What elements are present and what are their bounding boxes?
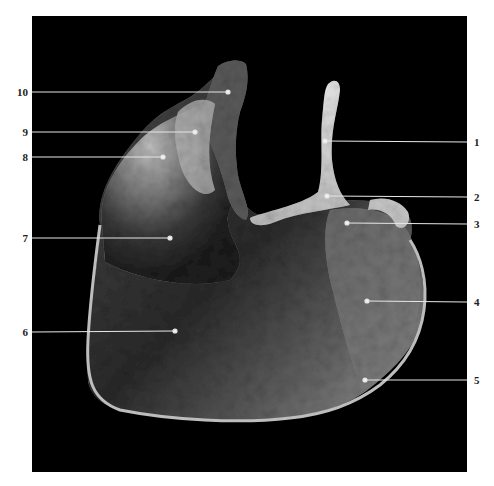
label-2: 2 — [474, 191, 494, 203]
label-9: 9 — [6, 126, 28, 138]
label-8: 8 — [6, 151, 28, 163]
figure-caption-clipped — [150, 478, 350, 486]
label-6: 6 — [6, 326, 28, 338]
label-3: 3 — [474, 218, 494, 230]
anatomical-figure: 10 9 8 7 6 1 2 3 4 5 — [0, 0, 494, 486]
label-4: 4 — [474, 296, 494, 308]
label-5: 5 — [474, 374, 494, 386]
stomach-specimen-image — [0, 0, 494, 486]
label-10: 10 — [6, 86, 28, 98]
label-7: 7 — [6, 232, 28, 244]
label-1: 1 — [474, 136, 494, 148]
